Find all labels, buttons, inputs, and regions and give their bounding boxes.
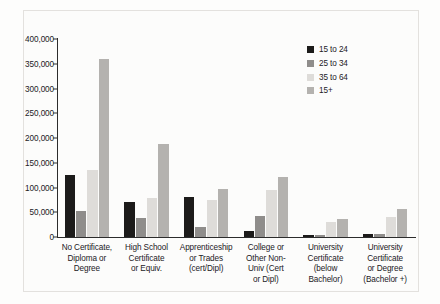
legend-swatch-icon <box>307 46 314 53</box>
bar-35-to-64 <box>326 222 336 237</box>
y-axis-tick-label: 0 <box>2 233 54 242</box>
x-axis-line <box>57 237 416 238</box>
legend-swatch-icon <box>307 74 314 81</box>
bar-35-to-64 <box>386 217 396 237</box>
legend-label: 15+ <box>319 86 333 95</box>
legend-item: 15+ <box>307 85 348 97</box>
legend-item: 25 to 34 <box>307 58 348 70</box>
x-axis-category-label: University Certificate or Degree (Bachel… <box>351 243 419 285</box>
bar-35-to-64 <box>147 198 157 237</box>
x-axis-category-label: High School Certificate or Equiv. <box>113 243 181 275</box>
y-axis-tick-label: 100,000 <box>2 183 54 192</box>
bar-15+ <box>397 209 407 237</box>
legend-label: 15 to 24 <box>319 45 348 54</box>
y-axis-tick-label: 350,000 <box>2 59 54 68</box>
bar-25-to-34 <box>195 227 205 237</box>
bar-15+ <box>158 144 168 237</box>
plot-area <box>57 39 415 237</box>
x-axis-category-label: No Certificate, Diploma or Degree <box>53 243 121 275</box>
x-axis-category-label: Apprenticeship or Trades (cert/Dipl) <box>172 243 240 275</box>
bar-15-to-24 <box>184 197 194 237</box>
bar-15-to-24 <box>65 175 75 237</box>
y-axis-tick-label: 50,000 <box>2 208 54 217</box>
y-axis-tick-labels: 400,000350,000300,000250,000200,000150,0… <box>0 0 54 304</box>
y-axis-tick-label: 400,000 <box>2 35 54 44</box>
bar-15+ <box>337 219 347 237</box>
bar-group <box>57 39 117 237</box>
legend-item: 15 to 24 <box>307 44 348 56</box>
bar-group <box>355 39 415 237</box>
y-axis-tick-label: 300,000 <box>2 84 54 93</box>
bar-group <box>117 39 177 237</box>
bar-15-to-24 <box>124 202 134 237</box>
chart-legend: 15 to 2425 to 3435 to 6415+ <box>307 44 348 99</box>
bar-25-to-34 <box>136 218 146 237</box>
bar-15+ <box>99 59 109 237</box>
x-axis-category-label: University Certificate (below Bachelor) <box>292 243 360 285</box>
bar-25-to-34 <box>76 211 86 237</box>
x-axis-category-label: College or Other Non- Univ (Cert or Dipl… <box>232 243 300 285</box>
bar-35-to-64 <box>207 200 217 237</box>
y-axis-tick-label: 250,000 <box>2 109 54 118</box>
y-axis-tick-label: 150,000 <box>2 158 54 167</box>
legend-swatch-icon <box>307 60 314 67</box>
bar-15-to-24 <box>363 234 373 237</box>
bar-35-to-64 <box>87 170 97 237</box>
bar-35-to-64 <box>266 190 276 237</box>
legend-item: 35 to 64 <box>307 71 348 83</box>
legend-swatch-icon <box>307 87 314 94</box>
legend-label: 35 to 64 <box>319 73 348 82</box>
bar-25-to-34 <box>315 235 325 237</box>
chart-figure: 400,000350,000300,000250,000200,000150,0… <box>0 0 440 304</box>
bar-15+ <box>278 177 288 237</box>
bar-15+ <box>218 189 228 237</box>
legend-label: 25 to 34 <box>319 59 348 68</box>
y-axis-tick-label: 200,000 <box>2 134 54 143</box>
bar-15-to-24 <box>303 235 313 237</box>
bar-25-to-34 <box>374 234 384 237</box>
bar-group <box>176 39 236 237</box>
bar-group <box>236 39 296 237</box>
bar-15-to-24 <box>244 231 254 237</box>
bar-25-to-34 <box>255 216 265 237</box>
